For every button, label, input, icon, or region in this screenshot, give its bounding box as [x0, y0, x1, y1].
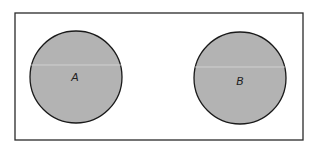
set-b-label: B — [236, 75, 244, 88]
set-a-label: A — [70, 71, 79, 84]
venn-diagram: A B — [0, 0, 317, 150]
